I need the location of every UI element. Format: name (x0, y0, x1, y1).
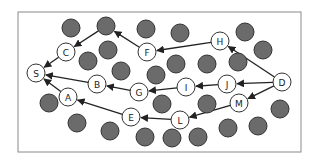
gray-node-14 (68, 114, 86, 132)
gray-node-13 (40, 94, 58, 112)
node-M: M (230, 94, 248, 112)
node-label: I (185, 83, 188, 93)
node-label: J (225, 80, 229, 90)
gray-node-17 (153, 95, 171, 113)
node-label: C (63, 48, 69, 58)
gray-node-0 (62, 19, 80, 37)
gray-node-21 (219, 119, 237, 137)
node-label: M (235, 99, 243, 109)
gray-node-22 (249, 117, 267, 135)
gray-node-15 (101, 122, 119, 140)
gray-node-18 (198, 95, 216, 113)
gray-node-11 (198, 55, 216, 73)
node-I: I (177, 78, 195, 96)
path-diagram: SCABFGEHIJDML (0, 0, 313, 162)
gray-node-12 (229, 53, 247, 71)
gray-node-19 (163, 129, 181, 147)
node-E: E (122, 108, 140, 126)
gray-node-7 (79, 52, 97, 70)
node-label: S (33, 69, 39, 79)
node-C: C (57, 43, 75, 61)
gray-node-1 (97, 17, 115, 35)
node-label: B (94, 80, 100, 90)
node-label: G (136, 88, 143, 98)
gray-node-2 (137, 20, 155, 38)
node-L: L (171, 111, 189, 129)
node-G: G (130, 83, 148, 101)
node-A: A (59, 88, 77, 106)
gray-node-8 (112, 62, 130, 80)
node-label: H (217, 37, 224, 47)
gray-node-9 (147, 66, 165, 84)
gray-node-4 (236, 23, 254, 41)
node-B: B (88, 75, 106, 93)
gray-node-16 (136, 128, 154, 146)
node-S: S (27, 64, 45, 82)
gray-node-23 (271, 100, 289, 118)
node-label: D (279, 78, 286, 88)
node-H: H (211, 32, 229, 50)
gray-node-10 (167, 55, 185, 73)
gray-node-20 (189, 128, 207, 146)
node-label: L (177, 116, 182, 126)
node-J: J (218, 75, 236, 93)
node-label: F (144, 48, 149, 58)
node-F: F (138, 43, 156, 61)
gray-node-6 (99, 41, 117, 59)
node-D: D (273, 73, 291, 91)
node-label: A (65, 93, 72, 103)
gray-node-5 (254, 41, 272, 59)
gray-node-3 (171, 24, 189, 42)
node-label: E (128, 113, 134, 123)
